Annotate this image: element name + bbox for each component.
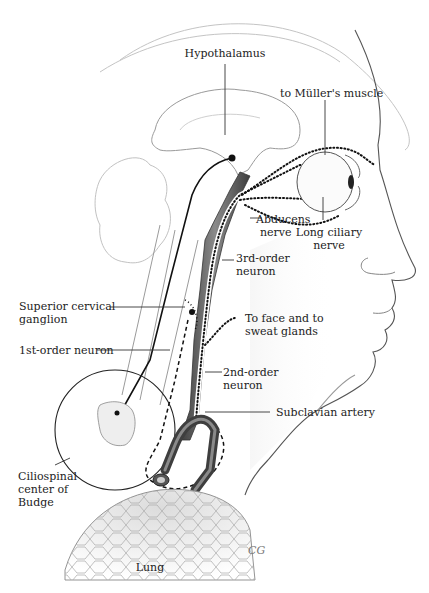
label-to-face-line2: sweat glands bbox=[245, 325, 324, 338]
label-abducens-line1: Abducens bbox=[256, 213, 311, 226]
eye bbox=[297, 152, 360, 212]
label-second-order-neuron: 2nd-order neuron bbox=[223, 366, 279, 392]
label-superior-cervical-line1: Superior cervical bbox=[19, 300, 115, 313]
cervical-column bbox=[122, 225, 198, 405]
label-ciliospinal-line2: center of bbox=[18, 483, 77, 496]
label-second-order-line1: 2nd-order bbox=[223, 366, 279, 379]
label-hypothalamus: Hypothalamus bbox=[175, 47, 275, 60]
label-superior-cervical-line2: ganglion bbox=[19, 313, 115, 326]
label-subclavian-artery: Subclavian artery bbox=[276, 406, 375, 419]
cerebellum bbox=[95, 158, 170, 263]
label-ciliospinal-center: Ciliospinal center of Budge bbox=[18, 470, 77, 509]
label-long-ciliary-line1: Long ciliary bbox=[295, 226, 363, 239]
label-to-face-line1: To face and to bbox=[245, 312, 324, 325]
label-first-order-neuron: 1st-order neuron bbox=[19, 344, 114, 357]
label-long-ciliary-nerve: Long ciliary nerve bbox=[295, 226, 363, 252]
oculosympathetic-pathway-diagram: Hypothalamus to Müller's muscle Abducens… bbox=[0, 0, 429, 593]
label-ciliospinal-line3: Budge bbox=[18, 496, 77, 509]
carotid-artery bbox=[180, 172, 250, 440]
label-ciliospinal-line1: Ciliospinal bbox=[18, 470, 77, 483]
label-third-order-neuron: 3rd-order neuron bbox=[236, 252, 290, 278]
label-lung: Lung bbox=[125, 561, 175, 574]
label-second-order-line2: neuron bbox=[223, 379, 279, 392]
label-superior-cervical-ganglion: Superior cervical ganglion bbox=[19, 300, 115, 326]
label-third-order-line1: 3rd-order bbox=[236, 252, 290, 265]
label-third-order-line2: neuron bbox=[236, 265, 290, 278]
label-to-mullers-muscle: to Müller's muscle bbox=[280, 87, 383, 100]
label-long-ciliary-line2: nerve bbox=[295, 239, 363, 252]
artist-signature: CG bbox=[248, 544, 265, 557]
brain-outline bbox=[152, 89, 300, 175]
label-to-face-sweat-glands: To face and to sweat glands bbox=[245, 312, 324, 338]
spinal-cord-section bbox=[98, 402, 135, 446]
